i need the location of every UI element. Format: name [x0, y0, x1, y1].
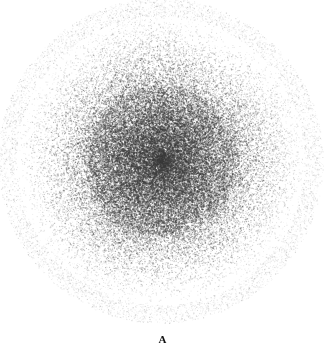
panel-label-text: A: [158, 333, 166, 345]
stipple-scatter-plot: [0, 0, 327, 348]
panel-label: A: [0, 333, 327, 345]
figure-panel: A: [0, 0, 327, 348]
